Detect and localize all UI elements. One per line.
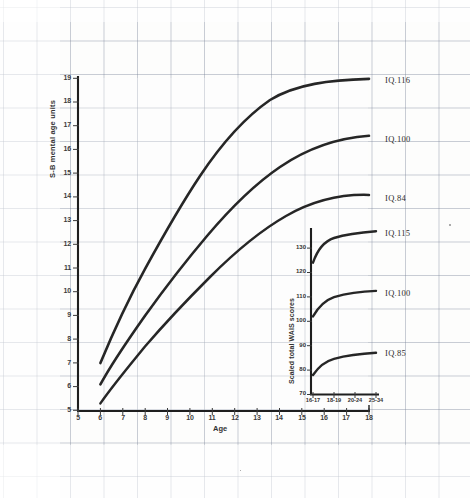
- main-ytick-9: 9: [57, 311, 71, 318]
- curve-label-iq-100-inset: IQ.100: [385, 288, 411, 298]
- inset-xtick-25-34: 25-34: [366, 397, 386, 403]
- curve-iq-100-main: [100, 136, 369, 385]
- main-xtick-12: 12: [228, 414, 242, 421]
- curve-iq-115-inset: [313, 231, 376, 263]
- curve-label-iq-85-inset: IQ.85: [385, 348, 406, 358]
- main-xtick-13: 13: [250, 414, 264, 421]
- inset-xtick-18-19: 18-19: [324, 397, 344, 403]
- curve-iq-85-inset: [313, 353, 376, 375]
- main-ytick-14: 14: [57, 192, 71, 199]
- main-xtick-8: 8: [138, 414, 152, 421]
- main-xtick-7: 7: [116, 414, 130, 421]
- main-xtick-10: 10: [183, 414, 197, 421]
- main-ytick-15: 15: [57, 169, 71, 176]
- main-ytick-10: 10: [57, 287, 71, 294]
- curve-label-iq-100-main: IQ.100: [385, 134, 411, 144]
- main-ytick-18: 18: [57, 97, 71, 104]
- main-xtick-18: 18: [362, 414, 376, 421]
- curve-label-iq-84: IQ.84: [385, 193, 406, 203]
- inset-ytick-120: 120: [292, 268, 306, 274]
- main-xtick-11: 11: [205, 414, 219, 421]
- main-xtick-17: 17: [339, 414, 353, 421]
- main-xtick-14: 14: [272, 414, 286, 421]
- main-ytick-5: 5: [57, 406, 71, 413]
- main-ytick-16: 16: [57, 145, 71, 152]
- curve-label-iq-116: IQ.116: [385, 75, 410, 85]
- main-xtick-9: 9: [160, 414, 174, 421]
- main-ytick-8: 8: [57, 335, 71, 342]
- inset-xtick-20-24: 20-24: [345, 397, 365, 403]
- main-xtick-16: 16: [317, 414, 331, 421]
- main-ytick-13: 13: [57, 216, 71, 223]
- inset-ytick-130: 130: [292, 244, 306, 250]
- main-x-axis-label: Age: [213, 424, 227, 433]
- main-ytick-7: 7: [57, 359, 71, 366]
- inset-xtick-16-17: 16-17: [303, 397, 323, 403]
- main-xtick-15: 15: [295, 414, 309, 421]
- inset-ytick-70: 70: [292, 390, 306, 396]
- main-ytick-6: 6: [57, 382, 71, 389]
- main-ytick-11: 11: [57, 264, 71, 271]
- main-y-axis-label: S-B mental age units: [48, 100, 57, 178]
- main-xtick-5: 5: [71, 414, 85, 421]
- main-ytick-17: 17: [57, 121, 71, 128]
- main-ytick-12: 12: [57, 240, 71, 247]
- curve-label-iq-115-inset: IQ.115: [385, 228, 410, 238]
- figure-canvas: 19 18 17 16 15 14 13 12 11 10 9 8 7 6 5 …: [0, 0, 470, 498]
- main-ytick-19: 19: [57, 74, 71, 81]
- inset-y-axis-label: Scaled total WAIS scores: [288, 298, 295, 384]
- main-xtick-6: 6: [93, 414, 107, 421]
- curve-iq-100-inset: [313, 291, 376, 317]
